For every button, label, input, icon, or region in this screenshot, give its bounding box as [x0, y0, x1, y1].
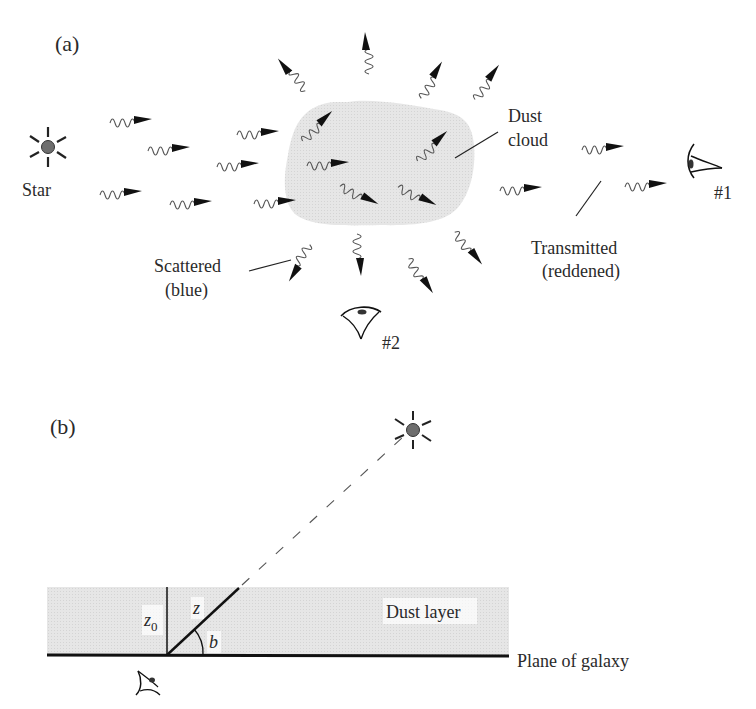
photon-icon [451, 228, 484, 269]
observer-eye-icon-panel-b [136, 671, 160, 695]
dust-layer-label: Dust layer [386, 602, 460, 622]
photon-icon [416, 60, 449, 101]
star-icon-panel-b [395, 411, 431, 449]
photon-icon [470, 63, 505, 102]
photon-icon [362, 32, 373, 74]
observer-1-label: #1 [714, 183, 732, 203]
observer-2-eye-icon [341, 307, 381, 339]
z-label: z [192, 598, 200, 618]
panel-a: (a) Star Dust cloud Transmitted (reddene… [22, 31, 732, 353]
photon-icon [148, 144, 190, 155]
scattered-leader-line [249, 260, 291, 271]
photon-icon [217, 160, 259, 171]
line-of-sight-dashed [242, 437, 403, 585]
transmitted-label-line1: Transmitted [531, 238, 617, 258]
transmitted-leader-line [576, 181, 601, 216]
panel-b-label: (b) [50, 414, 76, 439]
dust-extinction-diagram: (a) Star Dust cloud Transmitted (reddene… [0, 0, 756, 709]
photon-icon [582, 143, 624, 154]
photon-icon [500, 184, 542, 195]
scattered-label-line2: (blue) [165, 280, 208, 301]
star-icon [30, 127, 66, 167]
photon-icon [237, 128, 279, 139]
b-label: b [209, 632, 218, 652]
panel-b: (b) Dust layer Plane of galaxy z0 z b [47, 411, 629, 695]
plane-of-galaxy-label: Plane of galaxy [517, 651, 629, 671]
photon-icon [625, 180, 667, 191]
photon-icon [275, 54, 308, 95]
photon-icon [353, 234, 364, 276]
scattered-label-line1: Scattered [154, 256, 221, 276]
observer-2-label: #2 [382, 333, 400, 353]
dust-cloud [285, 101, 475, 226]
star-label: Star [22, 180, 51, 200]
transmitted-label-line2: (reddened) [542, 261, 620, 282]
galactic-plane-line [47, 655, 509, 656]
observer-1-eye-icon [688, 144, 722, 178]
photon-icon [110, 116, 152, 127]
photon-icon [282, 242, 315, 283]
photon-icon [100, 188, 142, 199]
photon-icon [170, 198, 212, 209]
dust-cloud-label-line2: cloud [508, 130, 548, 150]
dust-cloud-label-line1: Dust [508, 106, 542, 126]
photon-icon [405, 256, 436, 298]
panel-a-label: (a) [55, 31, 79, 56]
